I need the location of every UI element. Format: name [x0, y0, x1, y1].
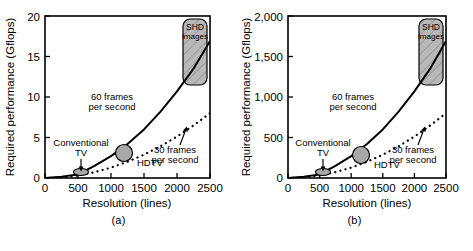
x-tick-label-a-5: 2500 [197, 182, 223, 194]
label-60fps-line2-a: per second [88, 101, 135, 112]
marker-hdtv-a [116, 145, 133, 162]
y-axis-title-a: Required performance (Gflops) [4, 18, 16, 177]
label-30fps-line2-b: per second [389, 154, 436, 165]
panel-b: 0 500 1,000 1,500 2,000 0 500 1000 1500 … [236, 0, 473, 251]
x-axis-title-b: Resolution (lines) [323, 197, 412, 209]
x-tick-label-b-1: 500 [310, 182, 329, 194]
y-axis-title-b: Required performance (Gflops) [240, 18, 252, 177]
x-tick-label-b-0: 0 [285, 182, 291, 194]
label-60fps-line2-b: per second [329, 101, 376, 112]
conventional-tv-line2-b: TV [317, 147, 330, 158]
y-tick-label-a-2: 10 [27, 91, 40, 103]
marker-hdtv-b [353, 147, 370, 164]
x-tick-label-a-3: 1500 [131, 182, 157, 194]
figure-performance-vs-resolution: 0 5 10 15 20 0 500 1000 1500 2000 2500 R… [0, 0, 473, 251]
chart-b: 0 500 1,000 1,500 2,000 0 500 1000 1500 … [236, 0, 473, 214]
x-tick-label-b-2: 1000 [338, 182, 364, 194]
y-tick-label-b-4: 2,000 [254, 11, 283, 23]
y-tick-label-b-3: 1,500 [254, 51, 283, 63]
x-tick-label-b-5: 2500 [433, 182, 459, 194]
panel-a: 0 5 10 15 20 0 500 1000 1500 2000 2500 R… [0, 0, 237, 251]
shd-label-line1-b: SHD [422, 22, 440, 32]
shd-label-line2-b: images [418, 32, 444, 41]
y-tick-label-b-2: 1,000 [254, 91, 283, 103]
annotation-60fps-a: 60 frames per second [88, 91, 135, 112]
y-tick-label-a-4: 20 [27, 11, 40, 23]
chart-a: 0 5 10 15 20 0 500 1000 1500 2000 2500 R… [0, 0, 237, 214]
x-axis-title-a: Resolution (lines) [83, 197, 172, 209]
y-tick-label-a-0: 0 [34, 172, 40, 184]
x-tick-label-b-3: 1500 [370, 182, 396, 194]
y-tick-label-b-1: 500 [264, 132, 283, 144]
annotation-60fps-b: 60 frames per second [329, 91, 376, 112]
caption-a: (a) [0, 214, 237, 226]
x-tick-label-a-1: 500 [68, 182, 87, 194]
x-tick-label-a-0: 0 [42, 182, 48, 194]
x-tick-label-b-4: 2000 [402, 182, 428, 194]
x-tick-label-a-2: 1000 [98, 182, 124, 194]
y-tick-label-b-0: 0 [277, 172, 283, 184]
y-tick-label-a-3: 15 [27, 51, 40, 63]
label-30fps-line2-a: per second [151, 154, 198, 165]
shd-label-line1-a: SHD [186, 22, 204, 32]
conventional-tv-line2-a: TV [75, 147, 88, 158]
shd-label-line2-a: images [182, 32, 208, 41]
caption-b: (b) [236, 214, 473, 226]
x-tick-label-a-4: 2000 [164, 182, 190, 194]
y-tick-label-a-1: 5 [34, 132, 40, 144]
